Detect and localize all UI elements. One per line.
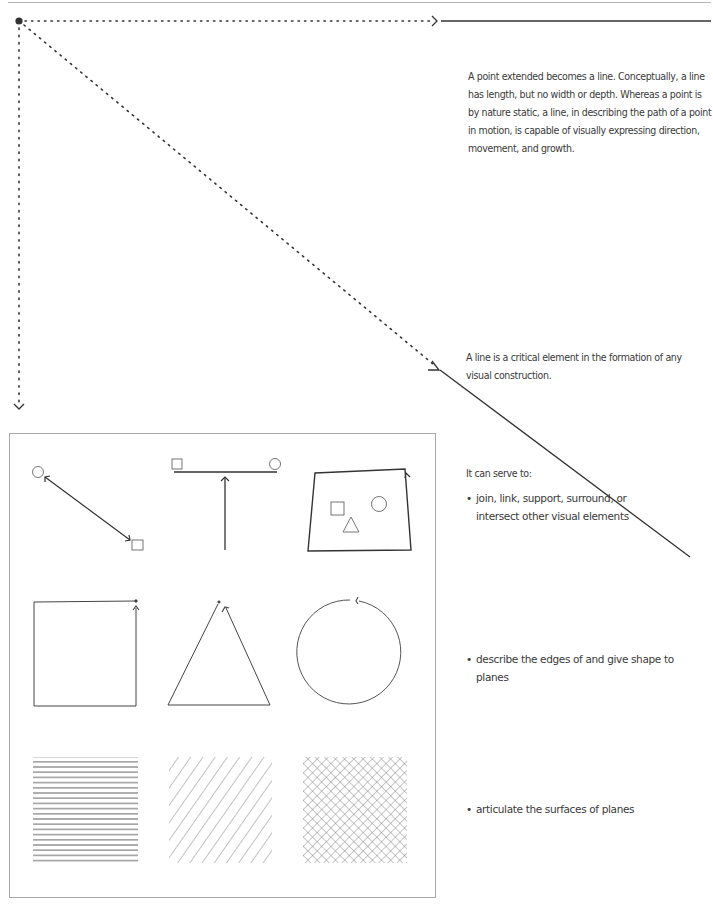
bullet-text: articulate the surfaces of planes (476, 800, 706, 818)
bullet-item: • articulate the surfaces of planes (466, 800, 706, 818)
intro-paragraph: A point extended becomes a line. Concept… (468, 67, 713, 157)
chevron-diagonal-icon (428, 361, 439, 370)
horizontal-line (25, 16, 711, 26)
point-dot (15, 17, 22, 24)
vertical-line (14, 28, 24, 409)
bullet-item: • join, link, support, surround, or inte… (466, 489, 646, 525)
bullet-item: • describe the edges of and give shape t… (466, 650, 706, 686)
chevron-down-icon (14, 404, 24, 409)
bullet-icon: • (466, 650, 472, 668)
critical-paragraph: A line is a critical element in the form… (466, 348, 696, 384)
bullet-text: join, link, support, surround, or inters… (476, 489, 646, 525)
serve-heading: It can serve to: (466, 464, 532, 482)
chevron-right-icon (432, 16, 437, 26)
bullet-text: describe the edges of and give shape to … (476, 650, 706, 686)
bullet-icon: • (466, 800, 472, 818)
illustration-frame (9, 433, 436, 898)
bullet-icon: • (466, 489, 472, 507)
